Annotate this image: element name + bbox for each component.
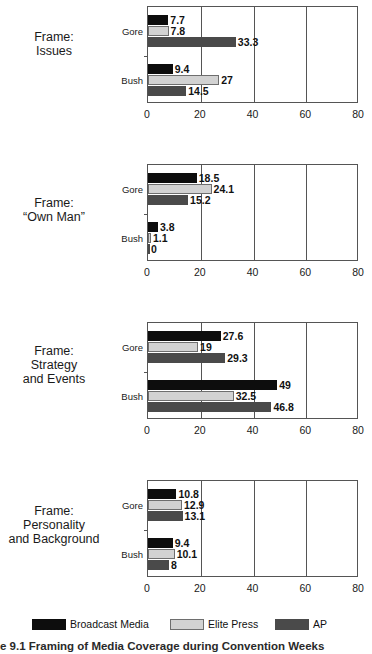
bar-value-label: 33.3 [236, 36, 258, 48]
bar-row: 46.8 [148, 402, 359, 412]
bar-value-label: 10.1 [175, 548, 197, 560]
plot-area: 27.61929.3Gore4932.546.8Bush [147, 322, 358, 419]
bar [148, 173, 197, 183]
bar-value-label: 0 [149, 243, 157, 255]
bar-row: 33.3 [148, 37, 359, 47]
bar-row: 14.5 [148, 86, 359, 96]
category-label-bush: Bush [121, 390, 143, 401]
chart-title-line: Personality [0, 518, 108, 532]
legend-swatch-ap [275, 619, 309, 630]
bar-value-label: 24.1 [212, 183, 234, 195]
bar-row: 8 [148, 560, 359, 570]
bar-value-label: 13.1 [183, 510, 205, 522]
bar-value-label: 27.6 [221, 330, 243, 342]
bar-row: 0 [148, 244, 359, 254]
bar-row: 27.6 [148, 331, 359, 341]
legend-item: Broadcast Media [32, 617, 149, 631]
bar-row: 49 [148, 380, 359, 390]
x-tick-label: 20 [194, 582, 206, 594]
chart-title-line: and Events [0, 372, 108, 386]
chart-title-line: Frame: [0, 30, 108, 44]
chart-panel: Frame:“Own Man”18.524.115.2Gore3.81.10Bu… [0, 158, 372, 316]
bar-row: 18.5 [148, 173, 359, 183]
chart-title-line: Frame: [0, 344, 108, 358]
category-label-gore: Gore [122, 500, 143, 511]
bar-value-label: 32.5 [234, 390, 256, 402]
legend-item: Elite Press [170, 617, 258, 631]
bar-value-label: 27 [219, 74, 233, 86]
x-tick-label: 80 [352, 424, 364, 436]
figure-root: Frame:Issues7.77.833.3Gore9.42714.5Bush0… [0, 0, 372, 654]
bar-value-label: 46.8 [271, 401, 293, 413]
bar-row: 12.9 [148, 500, 359, 510]
category-tick [144, 56, 148, 57]
x-tick-label: 80 [352, 108, 364, 120]
chart-panel: Frame:Issues7.77.833.3Gore9.42714.5Bush0… [0, 0, 372, 158]
bar-value-label: 14.5 [186, 85, 208, 97]
chart-title-line: Issues [0, 44, 108, 58]
bar [148, 549, 175, 559]
bar-row: 7.8 [148, 26, 359, 36]
bar [148, 331, 221, 341]
x-tick-label: 40 [247, 424, 259, 436]
bar [148, 342, 198, 352]
legend-label: Broadcast Media [70, 618, 149, 630]
x-tick-label: 40 [247, 108, 259, 120]
x-tick-label: 0 [144, 266, 150, 278]
bar-row: 7.7 [148, 15, 359, 25]
bar-row: 10.8 [148, 489, 359, 499]
x-tick-label: 60 [299, 108, 311, 120]
bar-value-label: 19 [198, 341, 212, 353]
chart-panel: Frame:Strategyand Events27.61929.3Gore49… [0, 316, 372, 474]
bar [148, 538, 173, 548]
x-tick-label: 0 [144, 582, 150, 594]
bar-row: 15.2 [148, 195, 359, 205]
x-tick-label: 80 [352, 582, 364, 594]
category-label-gore: Gore [122, 342, 143, 353]
x-axis: 020406080 [147, 262, 358, 282]
chart-legend: Broadcast MediaElite PressAP [0, 617, 372, 633]
bar-row: 27 [148, 75, 359, 85]
x-tick-label: 20 [194, 266, 206, 278]
x-tick-label: 40 [247, 266, 259, 278]
x-tick-label: 40 [247, 582, 259, 594]
plot-area: 10.812.913.1Gore9.410.18Bush [147, 480, 358, 577]
bar-row: 9.4 [148, 538, 359, 548]
category-label-gore: Gore [122, 26, 143, 37]
bar [148, 560, 169, 570]
category-tick [144, 372, 148, 373]
bar [148, 380, 277, 390]
bar-value-label: 9.4 [173, 63, 190, 75]
plot-area: 7.77.833.3Gore9.42714.5Bush [147, 6, 358, 103]
x-tick-label: 60 [299, 424, 311, 436]
bar [148, 391, 234, 401]
x-tick-label: 60 [299, 582, 311, 594]
bar [148, 402, 271, 412]
bar-row: 32.5 [148, 391, 359, 401]
legend-swatch-broadcast [32, 619, 66, 630]
chart-title-line: Frame: [0, 504, 108, 518]
bar [148, 489, 176, 499]
category-tick [144, 214, 148, 215]
chart-title: Frame:Personalityand Background [0, 504, 108, 546]
chart-title-line: “Own Man” [0, 210, 108, 224]
x-tick-label: 80 [352, 266, 364, 278]
figure-caption: e 9.1 Framing of Media Coverage during C… [0, 640, 372, 652]
bar-value-label: 29.3 [225, 352, 247, 364]
bar [148, 86, 186, 96]
x-tick-label: 60 [299, 266, 311, 278]
bar-row: 29.3 [148, 353, 359, 363]
bar-row: 9.4 [148, 64, 359, 74]
legend-label: Elite Press [208, 618, 258, 630]
chart-title-line: Strategy [0, 358, 108, 372]
bar-value-label: 15.2 [188, 194, 210, 206]
bar-value-label: 8 [169, 559, 177, 571]
x-tick-label: 0 [144, 108, 150, 120]
bar-row: 19 [148, 342, 359, 352]
category-label-bush: Bush [121, 548, 143, 559]
bar-row: 1.1 [148, 233, 359, 243]
plot-area: 18.524.115.2Gore3.81.10Bush [147, 164, 358, 261]
chart-title: Frame:“Own Man” [0, 196, 108, 224]
category-label-bush: Bush [121, 232, 143, 243]
bar [148, 500, 182, 510]
